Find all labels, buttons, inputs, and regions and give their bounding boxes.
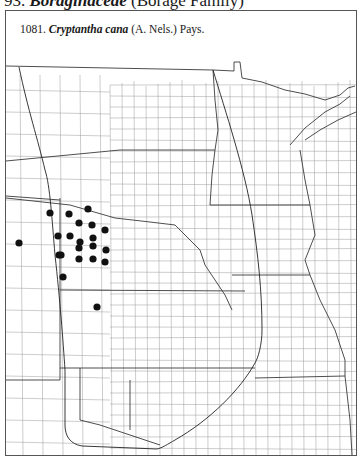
occurrence-dot (15, 239, 22, 246)
occurrence-dot (89, 242, 96, 249)
occurrence-dot (101, 226, 108, 233)
occurrence-dot (75, 255, 82, 262)
occurrence-dot (101, 258, 108, 265)
distribution-map (0, 0, 362, 463)
county-grid (6, 75, 356, 455)
occurrence-dot (84, 205, 91, 212)
occurrence-dot (59, 273, 66, 280)
occurrence-dot (93, 303, 100, 310)
occurrence-dots (15, 205, 109, 310)
occurrence-dot (88, 221, 95, 228)
occurrence-dot (89, 255, 96, 262)
occurrence-dot (57, 251, 64, 258)
region-boundary (19, 67, 262, 449)
occurrence-dot (102, 246, 109, 253)
occurrence-dot (46, 209, 53, 216)
occurrence-dot (75, 219, 82, 226)
occurrence-dot (54, 232, 61, 239)
occurrence-dot (66, 232, 73, 239)
occurrence-dot (76, 238, 83, 245)
occurrence-dot (89, 234, 96, 241)
occurrence-dot (75, 244, 82, 251)
occurrence-dot (65, 210, 72, 217)
